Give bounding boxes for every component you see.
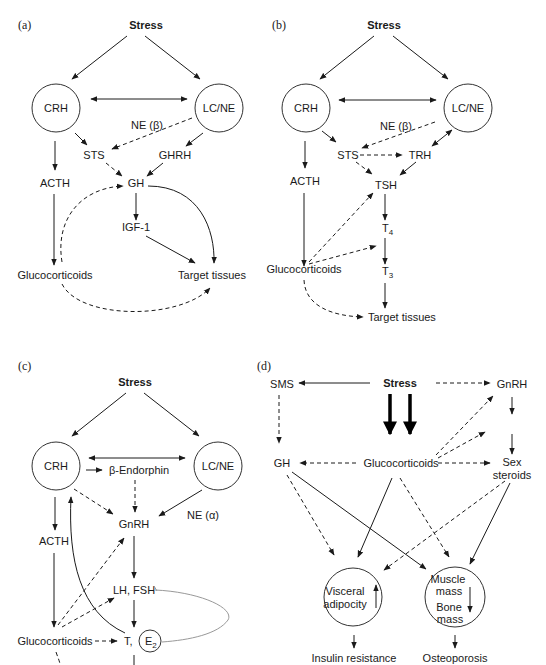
t-node: T, — [124, 635, 133, 647]
tsh-node: TSH — [375, 179, 397, 191]
visceral-adipocity-node: Visceraladipocity — [323, 585, 367, 610]
ghrh-node: GHRH — [159, 149, 191, 161]
acth-node: ACTH — [40, 177, 70, 189]
glucocorticoids-node: Glucocorticoids — [17, 635, 93, 647]
crh-node: CRH — [44, 460, 68, 472]
visceral-adipocity-circle — [324, 568, 382, 626]
igf1-node: IGF-1 — [122, 221, 150, 233]
trh-node: TRH — [409, 149, 432, 161]
panel-c: (c) Stress CRH LC/NE β-Endorphin NE (α) … — [17, 359, 242, 665]
panel-b: (b) Stress CRH LC/NE NE (β) STS TRH ACTH… — [266, 18, 492, 323]
sts-node: STS — [337, 149, 358, 161]
acth-node: ACTH — [290, 175, 320, 187]
acth-node: ACTH — [39, 535, 69, 547]
glucocorticoids-node: Glucocorticoids — [17, 269, 93, 281]
panel-d-label: (d) — [257, 359, 271, 373]
t4-node: T4 — [382, 222, 394, 237]
beta-endorphin-node: β-Endorphin — [109, 464, 169, 476]
lcne-node: LC/NE — [452, 102, 484, 114]
lcne-node: LC/NE — [203, 102, 235, 114]
lcne-node: LC/NE — [202, 460, 234, 472]
panel-a: (a) Stress CRH LC/NE NE (β) STS GHRH ACT… — [17, 18, 246, 312]
panel-c-label: (c) — [18, 359, 31, 373]
gnrh-node: GnRH — [119, 518, 150, 530]
target-tissues-node: Target tissues — [368, 311, 436, 323]
t3-node: T3 — [382, 265, 394, 280]
insulin-resistance-node: Insulin resistance — [312, 652, 397, 664]
sex-steroids-node: Sexsteroids — [493, 456, 532, 481]
osteoporosis-node: Osteoporosis — [423, 652, 488, 664]
bone-mass-node: Bonemass — [436, 601, 463, 625]
ne-beta-label: NE (β) — [131, 119, 163, 131]
sms-node: SMS — [270, 378, 294, 390]
ne-beta-label: NE (β) — [380, 120, 412, 132]
crh-node: CRH — [44, 102, 68, 114]
glucocorticoids-node: Glucocorticoids — [266, 263, 342, 275]
muscle-mass-node: Musclemass — [431, 573, 466, 597]
stress-node: Stress — [129, 19, 163, 31]
gh-node: GH — [274, 457, 291, 469]
gnrh-node: GnRH — [497, 378, 528, 390]
crh-node: CRH — [294, 102, 318, 114]
gh-node: GH — [128, 177, 145, 189]
panel-d: (d) SMS Stress GnRH GH Glucocorticoids S… — [257, 359, 532, 664]
lh-fsh-node: LH, FSH — [113, 584, 155, 596]
stress-node: Stress — [383, 377, 417, 389]
glucocorticoids-node: Glucocorticoids — [363, 457, 439, 469]
panel-b-label: (b) — [272, 18, 286, 32]
panel-a-label: (a) — [18, 18, 31, 32]
ne-alpha-label: NE (α) — [187, 509, 219, 521]
stress-node: Stress — [118, 376, 152, 388]
sts-node: STS — [83, 149, 104, 161]
stress-hormone-diagram: (a) Stress CRH LC/NE NE (β) STS GHRH ACT… — [0, 0, 546, 665]
stress-node: Stress — [367, 19, 401, 31]
target-tissues-node: Target tissues — [178, 269, 246, 281]
